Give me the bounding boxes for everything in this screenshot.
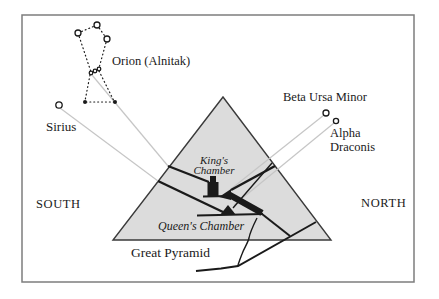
orion-star [104,36,110,42]
label-alpha-draconis: Alpha Draconis [330,126,375,154]
sirius-star [56,102,62,108]
label-south: SOUTH [36,198,81,212]
orion-star [113,100,117,104]
orion-star [94,22,100,28]
orion-belt-star [93,69,97,73]
alpha-draconis-star [333,118,338,123]
label-beta-ursa-minor: Beta Ursa Minor [283,91,367,105]
label-kings-chamber: King's Chamber [186,155,242,175]
label-queens-chamber: Queen's Chamber [158,220,244,233]
label-great-pyramid: Great Pyramid [131,246,210,261]
orion-star [75,30,81,36]
label-orion: Orion (Alnitak) [112,55,190,69]
orion-star [83,100,87,104]
label-kings-chamber-line2: Chamber [194,164,235,176]
beta-ursa-minor-star [323,110,329,116]
label-sirius: Sirius [46,120,76,134]
orion-belt-star-alnitak [89,71,93,75]
label-north: NORTH [361,197,406,211]
label-alpha-draconis-line2: Draconis [330,140,375,154]
label-alpha-draconis-line1: Alpha [330,126,361,140]
orion-belt-star [97,67,101,71]
kings-chamber-floor [203,196,231,197]
pyramid-star-alignment-diagram: Orion (Alnitak) Sirius Beta Ursa Minor A… [0,0,439,299]
